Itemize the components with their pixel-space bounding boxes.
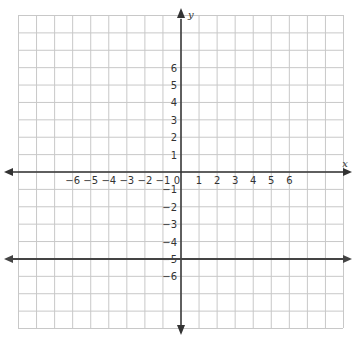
line-left-arrow-icon [4,255,13,263]
y-tick-label: −4 [162,237,177,248]
y-tick-label: 1 [171,150,177,161]
y-tick-label: −6 [162,271,177,282]
y-tick-label: −1 [162,184,177,195]
x-tick-label: 3 [232,175,238,186]
x-tick-label: 2 [214,175,220,186]
y-axis-label: y [187,9,194,20]
x-tick-label: 4 [250,175,256,186]
x-tick-label: 6 [286,175,292,186]
x-tick-label: −4 [101,175,116,186]
y-tick-label: 4 [171,97,177,108]
y-tick-label: −2 [162,202,177,213]
x-tick-label: 5 [268,175,274,186]
x-axis-right-arrow-icon [343,168,352,176]
y-tick-label: 3 [171,115,177,126]
y-tick-label: 2 [171,132,177,143]
x-axis-left-arrow-icon [4,168,13,176]
y-tick-label: 5 [171,80,177,91]
x-tick-label: −2 [138,175,153,186]
y-tick-label: 6 [171,63,177,74]
line-right-arrow-icon [343,255,352,263]
x-axis-label: x [342,158,348,169]
y-axis-down-arrow-icon [177,325,185,335]
y-tick-label: −3 [162,219,177,230]
x-tick-label: −3 [119,175,134,186]
x-tick-label: −5 [83,175,98,186]
y-axis-up-arrow-icon [177,8,185,18]
x-tick-label: −6 [65,175,80,186]
coordinate-plane: xy−6−5−4−3−2−10123456123456−1−2−3−4−5−6 [0,0,362,345]
x-tick-label: 1 [196,175,202,186]
